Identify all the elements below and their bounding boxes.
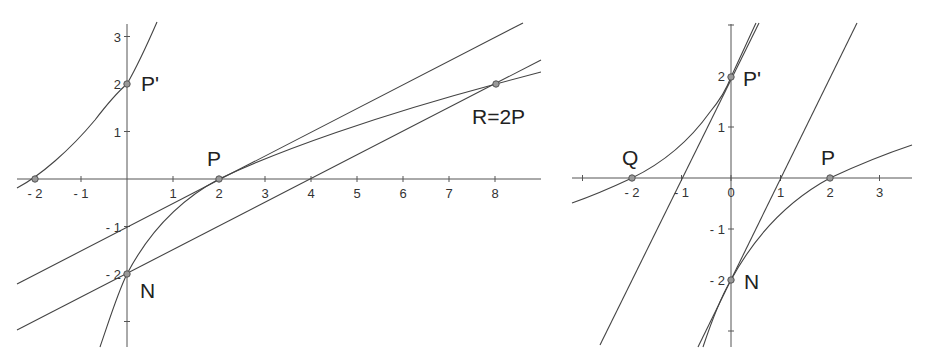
left-plot: - 2- 112345678 321- 1- 2 P' P N R=2P: [17, 22, 541, 347]
x-tick-label: 0: [727, 185, 734, 200]
y-tick-label: - 1: [106, 220, 121, 235]
y-tick-label: - 2: [710, 273, 725, 288]
x-tick-label: 1: [777, 185, 784, 200]
right-point-p: [827, 175, 833, 181]
x-tick-label: - 1: [674, 185, 689, 200]
x-tick-label: 2: [215, 186, 222, 201]
x-tick-label: 6: [399, 186, 406, 201]
y-tick-label: 2: [718, 69, 725, 84]
left-point-neg2: [32, 176, 38, 182]
right-point-q: [629, 175, 635, 181]
left-label-n: N: [140, 279, 155, 302]
y-tick-label: 3: [114, 30, 121, 45]
x-tick-label: 1: [169, 186, 176, 201]
right-label-p-prime: P': [743, 67, 761, 90]
right-upper-curve: [572, 23, 756, 203]
right-label-p: P: [821, 146, 835, 169]
right-plot: - 2- 10123 21- 1- 2 Q P' P N: [572, 23, 912, 347]
x-tick-label: 3: [261, 186, 268, 201]
x-tick-label: 7: [445, 186, 452, 201]
left-label-p: P: [207, 147, 221, 170]
y-tick-label: 1: [114, 125, 121, 140]
x-tick-label: 5: [353, 186, 360, 201]
left-upper-curve: [17, 22, 157, 188]
left-point-r: [493, 81, 499, 87]
right-label-q: Q: [622, 146, 638, 169]
right-x-ticks: - 2- 10123: [583, 175, 884, 200]
x-tick-label: 8: [491, 186, 498, 201]
x-tick-label: - 1: [73, 186, 88, 201]
left-label-r: R=2P: [472, 105, 525, 128]
left-lower-line: [17, 60, 541, 330]
y-tick-label: 1: [718, 120, 725, 135]
x-tick-label: - 2: [27, 186, 42, 201]
right-left-line: [600, 23, 759, 345]
y-tick-label: 2: [114, 77, 121, 92]
left-label-p-prime: P': [141, 72, 159, 95]
right-label-n: N: [744, 270, 759, 293]
left-x-ticks: - 2- 112345678: [27, 176, 498, 201]
left-point-n: [124, 271, 130, 277]
left-point-p: [216, 176, 222, 182]
right-lower-curve: [703, 145, 912, 347]
left-tangent-line: [17, 23, 523, 284]
left-point-p-prime: [124, 81, 130, 87]
right-point-n: [728, 277, 734, 283]
x-tick-label: 3: [876, 185, 883, 200]
diagram-canvas: - 2- 112345678 321- 1- 2 P' P N R=2P - 2…: [0, 0, 927, 362]
x-tick-label: - 2: [624, 185, 639, 200]
x-tick-label: 4: [307, 186, 314, 201]
x-tick-label: 2: [826, 185, 833, 200]
y-tick-label: - 1: [710, 222, 725, 237]
right-point-p-prime: [728, 74, 734, 80]
